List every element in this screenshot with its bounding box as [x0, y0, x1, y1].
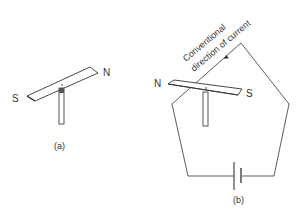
- pole-label-n-b: N: [154, 78, 161, 89]
- stand-a: [59, 88, 64, 124]
- compass-b: [168, 80, 242, 126]
- pole-label-s-b: S: [246, 88, 253, 99]
- caption-b: (b): [233, 195, 244, 205]
- pole-label-n-a: N: [103, 67, 110, 78]
- wire: [172, 43, 289, 176]
- stand-b: [203, 92, 208, 126]
- pole-label-s-a: S: [12, 93, 19, 104]
- diagram: S N (a) N S Conventional direction of cu…: [0, 0, 304, 222]
- caption-a: (a): [54, 141, 65, 151]
- compass-a: [27, 67, 98, 124]
